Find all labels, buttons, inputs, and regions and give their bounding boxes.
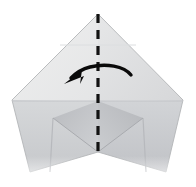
origami-diagram-svg: Origami step: fold right half to the lef…: [0, 0, 196, 187]
bottom-fade-mask: [0, 156, 196, 187]
origami-figure: Origami step: fold right half to the lef…: [0, 0, 196, 187]
